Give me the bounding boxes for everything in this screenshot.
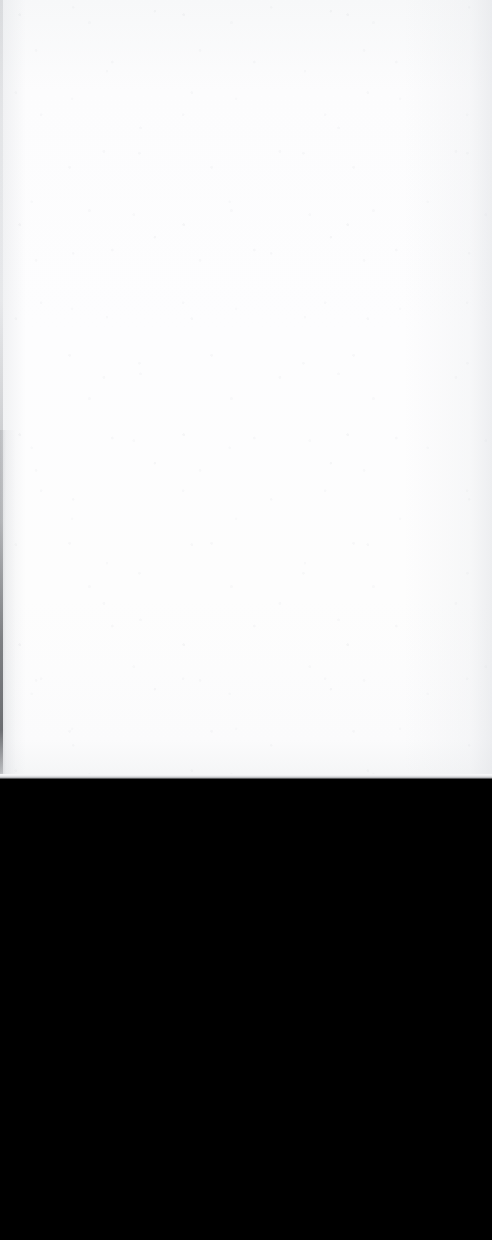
paper-grain-texture — [0, 0, 492, 778]
scanned-document-canvas: Blank Scanned Page — [0, 0, 492, 1240]
page-horizontal-shading — [0, 0, 492, 778]
page-sheet — [0, 0, 492, 778]
scanner-bed-region — [0, 779, 492, 1240]
page-vertical-shading — [0, 0, 492, 778]
